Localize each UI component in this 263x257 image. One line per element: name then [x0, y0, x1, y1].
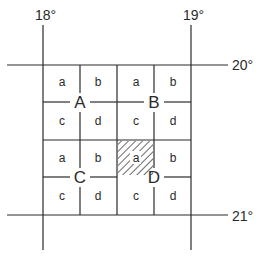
cell-label: c	[133, 114, 139, 128]
cell-label: b	[95, 151, 102, 165]
cell-label: a	[59, 75, 66, 89]
cell-label: d	[95, 189, 102, 203]
quadrant-label-C: C	[74, 168, 86, 187]
cell-label: c	[59, 189, 65, 203]
cell-label: c	[59, 114, 65, 128]
quadrant-label-D: D	[148, 168, 160, 187]
cell-label: d	[170, 114, 177, 128]
quadrant-label-B: B	[148, 93, 159, 112]
cell-label: b	[170, 75, 177, 89]
latitude-label-20: 20°	[232, 57, 253, 73]
cell-label: b	[170, 151, 177, 165]
cell-label: c	[133, 189, 139, 203]
longitude-label-18: 18°	[35, 7, 56, 23]
cell-label: d	[170, 189, 177, 203]
latitude-label-21: 21°	[232, 208, 253, 224]
cell-label-highlighted: a	[133, 151, 140, 165]
cell-label: d	[95, 114, 102, 128]
cell-label: b	[95, 75, 102, 89]
cell-label: a	[133, 75, 140, 89]
cell-label: a	[59, 151, 66, 165]
longitude-label-19: 19°	[183, 7, 204, 23]
quadrant-label-A: A	[74, 93, 86, 112]
grid-diagram: 18° 19° 20° 21° A B C D a b c d a b c d …	[0, 0, 263, 257]
